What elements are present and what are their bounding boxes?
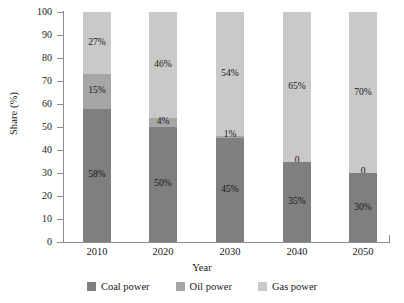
y-axis-tick-label: 10 <box>12 214 52 224</box>
legend-item-gas-power[interactable]: Gas power <box>258 281 317 292</box>
legend-item-oil-power[interactable]: Oil power <box>176 281 232 292</box>
bar-2020[interactable]: 46%4%50% <box>149 12 177 242</box>
chart-legend: Coal powerOil powerGas power <box>0 281 404 292</box>
x-axis-tick-label-2040: 2040 <box>267 246 327 257</box>
bar-segment-label: 70% <box>337 88 389 98</box>
y-axis-tick-label: 20 <box>12 191 52 201</box>
legend-swatch-icon <box>87 282 96 291</box>
y-axis-tick-label: 100 <box>12 7 52 17</box>
bar-segment-label: 27% <box>71 38 123 48</box>
bar-segment-coal-power-2020[interactable]: 50% <box>149 127 177 242</box>
y-axis-tick-label: 30 <box>12 168 52 178</box>
bar-segment-oil-power-2020[interactable]: 4% <box>149 118 177 127</box>
stacked-bar-chart: Share (%) Year 0102030405060708090100 27… <box>0 0 404 303</box>
bar-segment-oil-power-2010[interactable]: 15% <box>83 74 111 109</box>
x-axis-tick-label-2020: 2020 <box>133 246 193 257</box>
legend-swatch-icon <box>258 282 267 291</box>
bar-segment-coal-power-2050[interactable]: 30% <box>349 173 377 242</box>
y-axis-tick-label: 40 <box>12 145 52 155</box>
bar-segment-coal-power-2010[interactable]: 58% <box>83 109 111 242</box>
y-axis-tick-label: 0 <box>12 237 52 247</box>
legend-item-coal-power[interactable]: Coal power <box>87 281 150 292</box>
x-axis-line <box>63 242 390 243</box>
bar-segment-label: 45% <box>204 185 256 195</box>
bar-segment-label: 15% <box>71 87 123 97</box>
bar-segment-label: 46% <box>137 60 189 70</box>
bar-segment-label: 35% <box>271 197 323 207</box>
bar-segment-label: 4% <box>137 118 189 128</box>
y-axis-tick-label: 50 <box>12 122 52 132</box>
bar-segment-coal-power-2040[interactable]: 35% <box>283 162 311 243</box>
bar-segment-gas-power-2010[interactable]: 27% <box>83 12 111 74</box>
y-axis-tick-label: 90 <box>12 30 52 40</box>
x-axis-tick-label-2050: 2050 <box>333 246 393 257</box>
bar-segment-label: 65% <box>271 82 323 92</box>
plot-area: 27%15%58%46%4%50%54%1%45%65%035%70%030% <box>63 12 390 242</box>
legend-label: Gas power <box>272 281 317 292</box>
bar-segment-label: 54% <box>204 69 256 79</box>
bar-segment-coal-power-2030[interactable]: 45% <box>216 138 244 242</box>
bar-segment-label: 50% <box>137 180 189 190</box>
bar-segment-label: 58% <box>71 171 123 181</box>
legend-swatch-icon <box>176 282 185 291</box>
x-axis-tick-label-2030: 2030 <box>200 246 260 257</box>
bar-2010[interactable]: 27%15%58% <box>83 12 111 242</box>
bar-segment-label: 30% <box>337 203 389 213</box>
bar-segment-gas-power-2050[interactable]: 70% <box>349 12 377 173</box>
bar-segment-gas-power-2020[interactable]: 46% <box>149 12 177 118</box>
y-axis-tick-label: 80 <box>12 53 52 63</box>
legend-label: Oil power <box>190 281 232 292</box>
y-axis-tick-label: 70 <box>12 76 52 86</box>
bar-2040[interactable]: 65%035% <box>283 12 311 242</box>
legend-label: Coal power <box>101 281 150 292</box>
y-axis-tick <box>57 242 63 243</box>
bar-segment-gas-power-2040[interactable]: 65% <box>283 12 311 162</box>
bar-segment-gas-power-2030[interactable]: 54% <box>216 12 244 136</box>
x-axis-tick-label-2010: 2010 <box>67 246 127 257</box>
x-axis-title: Year <box>0 262 404 273</box>
y-axis-tick-label: 60 <box>12 99 52 109</box>
bar-2050[interactable]: 70%030% <box>349 12 377 242</box>
bar-2030[interactable]: 54%1%45% <box>216 12 244 242</box>
